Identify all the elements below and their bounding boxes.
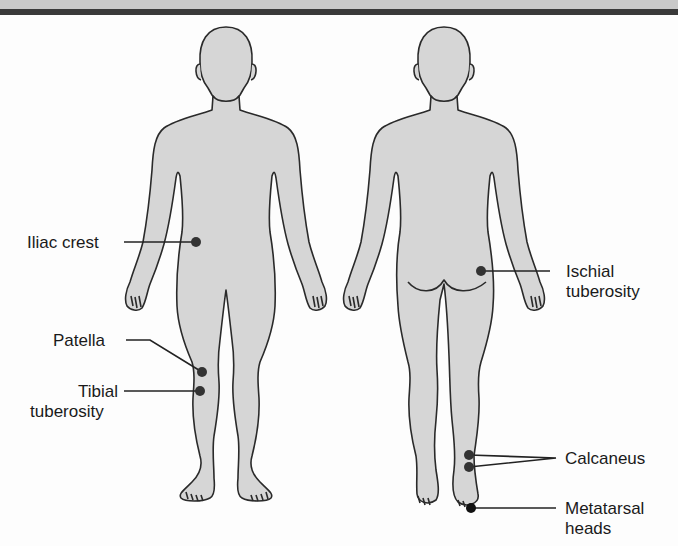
label-calcaneus: Calcaneus [565, 449, 645, 468]
label-ischial-line1: Ischial [566, 262, 614, 281]
metatarsal-heads-marker [466, 503, 476, 513]
iliac-crest-marker [191, 237, 201, 247]
label-tibial-line2: tuberosity [30, 402, 104, 421]
ischial-tuberosity-marker [476, 266, 486, 276]
patella-marker [197, 367, 207, 377]
label-metatarsal-line1: Metatarsal [565, 499, 644, 518]
label-tibial-line1: Tibial [30, 382, 118, 401]
label-iliac-crest: Iliac crest [27, 233, 99, 252]
label-patella: Patella [53, 331, 105, 350]
label-metatarsal-line2: heads [565, 519, 611, 538]
calcaneus-marker-upper [464, 450, 474, 460]
tibial-tuberosity-marker [195, 386, 205, 396]
calcaneus-marker-lower [464, 462, 474, 472]
front-view-figure [126, 27, 327, 501]
label-ischial-line2: tuberosity [566, 282, 640, 301]
back-view-figure [344, 27, 545, 507]
calcaneus-leader [469, 455, 556, 467]
